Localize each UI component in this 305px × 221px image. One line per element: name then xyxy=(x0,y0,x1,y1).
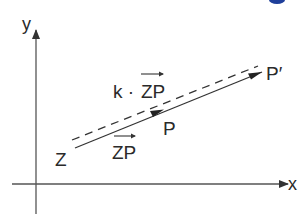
zp-label: ZP xyxy=(112,142,136,163)
kzp-label: ZP xyxy=(141,81,165,102)
point-p-prime-label: P′ xyxy=(266,63,283,84)
kzp-label-group: k · ZP xyxy=(113,72,165,103)
vector-diagram: y x Z P P′ ZP k · ZP xyxy=(0,0,305,221)
point-z-label: Z xyxy=(55,149,67,170)
arrowhead-p-prime-icon xyxy=(248,72,262,80)
point-p-label: P xyxy=(163,118,176,139)
blue-marker-icon xyxy=(269,0,285,4)
zp-label-group: ZP xyxy=(112,134,136,164)
kzp-prefix-label: k · xyxy=(113,81,134,102)
x-axis-label: x xyxy=(288,174,297,194)
y-axis-label: y xyxy=(22,14,31,34)
